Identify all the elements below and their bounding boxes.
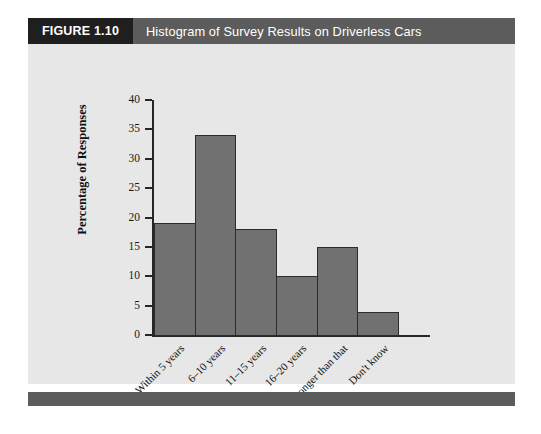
bars-layer: [28, 44, 515, 384]
histogram-bar: [317, 247, 359, 336]
figure-header: FIGURE 1.10 Histogram of Survey Results …: [28, 18, 515, 44]
figure-title: Histogram of Survey Results on Driverles…: [146, 24, 422, 39]
figure-number-block: FIGURE 1.10: [28, 18, 133, 44]
figure-title-block: Histogram of Survey Results on Driverles…: [133, 18, 515, 44]
histogram-bar: [154, 223, 196, 336]
histogram-bar: [195, 135, 237, 336]
histogram-chart: 0510152025303540 Percentage of Responses…: [28, 44, 515, 384]
figure-footer-bar: [28, 392, 515, 406]
figure-panel: 0510152025303540 Percentage of Responses…: [28, 44, 515, 384]
figure-number-label: FIGURE 1.10: [42, 24, 119, 38]
figure-container: FIGURE 1.10 Histogram of Survey Results …: [28, 18, 515, 410]
histogram-bar: [357, 312, 399, 337]
histogram-bar: [235, 229, 277, 336]
histogram-bar: [276, 276, 318, 336]
